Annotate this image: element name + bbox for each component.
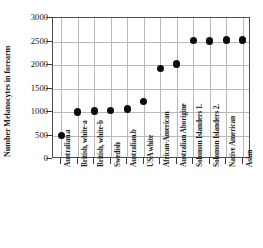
x-axis-tick-mark [143, 158, 144, 164]
x-axis-tick-mark [60, 158, 61, 164]
y-axis-tick-mark [46, 135, 52, 136]
x-axis-tick-label: Swedish [113, 142, 122, 167]
x-axis-tick-mark [209, 158, 210, 164]
y-axis-tick-mark [46, 64, 52, 65]
y-axis-tick-mark [46, 17, 52, 18]
y-axis-tick-mark [46, 111, 52, 112]
x-axis-tick-label: USA white [146, 135, 155, 167]
x-axis-tick-mark [126, 158, 127, 164]
x-axis-tick-mark [110, 158, 111, 164]
x-axis-tick-mark [176, 158, 177, 164]
y-axis-tick-mark [46, 158, 52, 159]
x-axis-tick-label: Australian.a [63, 130, 72, 167]
x-axis-tick-label: Australian Aborigine [179, 103, 188, 167]
x-axis-tick-mark [93, 158, 94, 164]
x-axis-tick-label: Native American [228, 116, 237, 167]
x-axis-tick-mark [159, 158, 160, 164]
x-axis-tick-label: Solomon Islanders 1. [195, 104, 204, 167]
x-axis-tick-label: British, white-b [96, 120, 105, 167]
x-axis-tick-mark [242, 158, 243, 164]
x-axis-tick-label: African-American [162, 112, 171, 167]
x-axis-tick-label: British, white-a [80, 121, 89, 167]
melanocyte-scatter-chart: Number Melanocytes in forearm 0500100015… [0, 0, 263, 248]
x-axis-tick-mark [77, 158, 78, 164]
y-axis-tick-mark [46, 41, 52, 42]
x-axis-tick-label: Asian [245, 150, 254, 167]
x-axis-tick-label: Australian.b [129, 129, 138, 167]
x-axis-tick-label: Solomon Islanders 2. [212, 104, 221, 167]
x-axis-tick-labels: Australian.aBritish, white-aBritish, whi… [0, 0, 263, 248]
x-axis-tick-mark [225, 158, 226, 164]
y-axis-tick-mark [46, 88, 52, 89]
x-axis-tick-mark [192, 158, 193, 164]
